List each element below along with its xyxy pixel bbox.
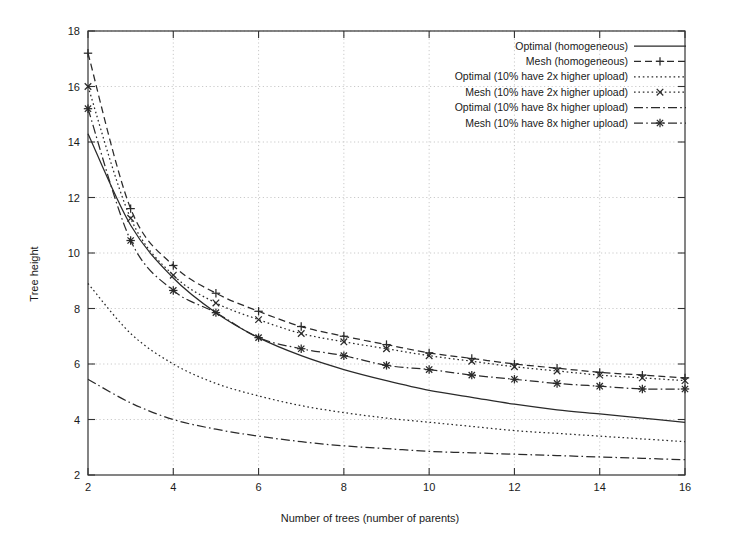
data-point-marker	[382, 361, 390, 369]
data-point-marker	[297, 345, 305, 353]
data-point-marker	[425, 365, 433, 373]
data-point-marker	[126, 204, 134, 212]
y-tick-label: 6	[74, 358, 80, 370]
data-point-marker	[169, 286, 177, 294]
data-point-marker	[127, 215, 134, 222]
data-point-marker	[84, 105, 92, 113]
series-line	[88, 134, 685, 423]
data-point-marker	[298, 330, 305, 337]
data-point-marker	[681, 385, 689, 393]
y-tick-label: 14	[68, 136, 80, 148]
data-point-marker	[510, 375, 518, 383]
legend-label: Optimal (10% have 2x higher upload)	[455, 70, 628, 82]
legend-label: Optimal (10% have 8x higher upload)	[455, 101, 628, 113]
x-tick-label: 14	[594, 481, 606, 493]
data-point-marker	[596, 382, 604, 390]
data-point-marker	[212, 289, 220, 297]
y-tick-label: 16	[68, 81, 80, 93]
data-point-marker	[126, 236, 134, 244]
y-tick-label: 12	[68, 192, 80, 204]
data-point-marker	[254, 333, 262, 341]
data-point-marker	[255, 316, 262, 323]
data-point-marker	[657, 89, 664, 96]
y-tick-label: 10	[68, 247, 80, 259]
data-point-marker	[340, 351, 348, 359]
plot-svg: 24681012141618246810121416 Optimal (homo…	[0, 0, 740, 547]
chart-figure: 24681012141618246810121416 Optimal (homo…	[0, 0, 740, 547]
series-line	[88, 379, 685, 459]
legend-label: Mesh (homogeneous)	[526, 55, 628, 67]
series-line	[88, 87, 685, 381]
data-point-marker	[656, 57, 664, 65]
data-point-marker	[84, 49, 92, 57]
x-tick-label: 16	[679, 481, 691, 493]
data-point-marker	[468, 371, 476, 379]
data-point-marker	[656, 119, 664, 127]
data-point-marker	[382, 340, 390, 348]
y-tick-label: 8	[74, 303, 80, 315]
x-tick-label: 12	[508, 481, 520, 493]
x-tick-label: 10	[423, 481, 435, 493]
data-point-marker	[553, 379, 561, 387]
data-point-marker	[213, 300, 220, 307]
legend-label: Optimal (homogeneous)	[515, 40, 628, 52]
y-axis-title: Tree height	[28, 246, 40, 301]
x-tick-label: 8	[341, 481, 347, 493]
chart-legend: Optimal (homogeneous)Mesh (homogeneous)O…	[455, 40, 686, 129]
legend-label: Mesh (10% have 2x higher upload)	[465, 86, 628, 98]
x-tick-label: 2	[85, 481, 91, 493]
y-tick-label: 18	[68, 25, 80, 37]
data-point-marker	[297, 322, 305, 330]
legend-label: Mesh (10% have 8x higher upload)	[465, 117, 628, 129]
x-axis-title: Number of trees (number of parents)	[0, 512, 740, 524]
y-tick-label: 4	[74, 414, 80, 426]
data-point-marker	[638, 385, 646, 393]
x-tick-label: 6	[256, 481, 262, 493]
y-tick-label: 2	[74, 469, 80, 481]
data-point-marker	[212, 308, 220, 316]
x-tick-label: 4	[170, 481, 176, 493]
